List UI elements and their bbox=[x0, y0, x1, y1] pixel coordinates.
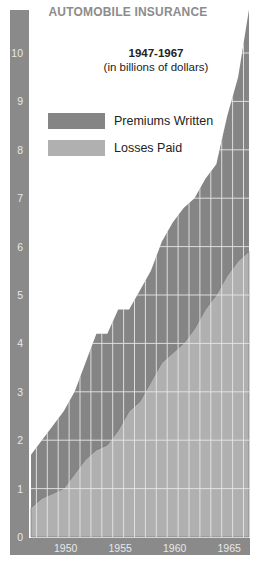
x-tick-label: 1960 bbox=[163, 542, 187, 554]
y-tick-label: 1 bbox=[17, 483, 23, 495]
chart-area: 012345678910 1950195519601965 bbox=[0, 0, 256, 566]
x-tick-label: 1950 bbox=[54, 542, 78, 554]
legend-label-premiums: Premiums Written bbox=[114, 114, 213, 128]
y-tick-label: 0 bbox=[17, 531, 23, 543]
legend-label-losses: Losses Paid bbox=[114, 141, 182, 155]
y-tick-label: 5 bbox=[17, 289, 23, 301]
y-tick-label: 6 bbox=[17, 241, 23, 253]
y-tick-label: 4 bbox=[17, 337, 23, 349]
y-axis-band bbox=[10, 10, 29, 555]
x-tick-label: 1955 bbox=[109, 542, 133, 554]
y-tick-label: 2 bbox=[17, 434, 23, 446]
y-tick-label: 7 bbox=[17, 192, 23, 204]
chart-subtitle-years: 1947-1967 bbox=[86, 47, 226, 59]
x-tick-label: 1965 bbox=[218, 542, 242, 554]
y-tick-label: 3 bbox=[17, 386, 23, 398]
chart-subtitle-units: (in billions of dollars) bbox=[86, 61, 226, 73]
legend-swatch-losses bbox=[48, 140, 105, 156]
legend-swatch-premiums bbox=[48, 113, 105, 129]
y-tick-label: 9 bbox=[17, 95, 23, 107]
y-tick-label: 10 bbox=[11, 47, 23, 59]
y-tick-label: 8 bbox=[17, 144, 23, 156]
